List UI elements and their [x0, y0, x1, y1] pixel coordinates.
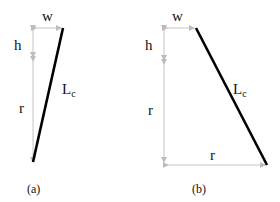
lc-label: Lc: [233, 81, 247, 99]
h-label: h: [145, 37, 153, 53]
r-vertical-label: r: [148, 102, 153, 118]
w-label: w: [42, 8, 53, 24]
h-label: h: [14, 37, 22, 53]
r-horizontal-label: r: [210, 147, 215, 163]
panel-b: w h r r Lc (b): [145, 8, 267, 196]
w-label: w: [172, 8, 183, 24]
diagram-canvas: w h r Lc (a) w h r r Lc (b): [0, 0, 280, 202]
r-label: r: [19, 100, 24, 116]
panel-a: w h r Lc (a): [14, 8, 76, 196]
lc-main-line: [33, 28, 63, 162]
caption-a: (a): [27, 182, 40, 196]
lc-label: Lc: [62, 81, 76, 99]
caption-b: (b): [192, 182, 206, 196]
lc-main-line: [196, 28, 267, 165]
